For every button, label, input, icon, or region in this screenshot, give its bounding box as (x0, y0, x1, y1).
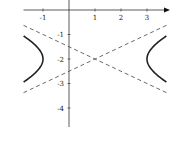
y-tick-label: -1 (57, 31, 64, 39)
x-tick-label: -1 (40, 14, 47, 22)
y-tick-label: -3 (57, 80, 64, 88)
x-tick-label: 1 (93, 14, 97, 22)
x-axis-arrow-icon (164, 8, 170, 13)
hyperbola-plot: -1123-1-2-3-4 (0, 0, 170, 154)
hyperbola-right-branch (147, 36, 166, 82)
axis-ticks: -1123-1-2-3-4 (40, 9, 150, 113)
x-tick-label: 3 (145, 14, 149, 22)
hyperbola-left-branch (24, 36, 43, 82)
x-tick-label: 2 (119, 14, 123, 22)
y-tick-label: -2 (57, 56, 64, 64)
plot-curves (24, 25, 167, 92)
y-tick-label: -4 (57, 105, 64, 113)
